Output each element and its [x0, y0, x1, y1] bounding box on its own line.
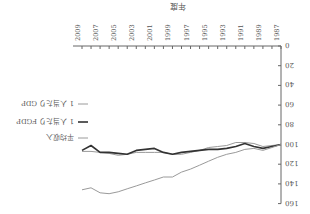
y-tick-label: 20 — [285, 61, 294, 69]
y-tick-label: 40 — [285, 80, 294, 88]
legend-label: 平均収入 — [46, 133, 74, 142]
x-tick-label: 1993 — [219, 24, 227, 41]
y-tick-label: 100 — [285, 140, 298, 148]
axes: 0204060801001201401601987198919911993199… — [73, 24, 298, 206]
x-tick-label: 2005 — [110, 24, 118, 41]
rotated-chart: 0204060801001201401601987198919911993199… — [0, 0, 310, 214]
x-tick-label: 1997 — [183, 24, 191, 41]
x-axis-label: 年度 — [170, 2, 186, 12]
x-tick-label: 1987 — [273, 24, 281, 41]
y-tick-label: 160 — [285, 199, 298, 207]
x-tick-label: 1999 — [164, 24, 172, 41]
series-lines — [82, 143, 281, 194]
x-tick-label: 2003 — [128, 24, 136, 41]
legend: 1 人当たり GDP1 人当たり FGDP平均収入 — [16, 99, 88, 142]
line-chart: 0204060801001201401601987198919911993199… — [0, 0, 310, 214]
x-tick-label: 1995 — [201, 24, 209, 41]
x-tick-label: 1989 — [255, 24, 263, 41]
y-tick-label: 80 — [285, 120, 294, 128]
y-tick-label: 140 — [285, 179, 298, 187]
y-tick-label: 120 — [285, 159, 298, 167]
y-tick-label: 60 — [285, 100, 294, 108]
legend-label: 1 人当たり FGDP — [16, 117, 74, 126]
legend-label: 1 人当たり GDP — [21, 99, 74, 108]
x-tick-label: 1991 — [237, 24, 245, 41]
y-tick-label: 0 — [285, 41, 289, 49]
x-tick-label: 2009 — [74, 24, 82, 41]
x-tick-label: 2007 — [92, 24, 100, 41]
x-tick-label: 2001 — [146, 24, 154, 41]
